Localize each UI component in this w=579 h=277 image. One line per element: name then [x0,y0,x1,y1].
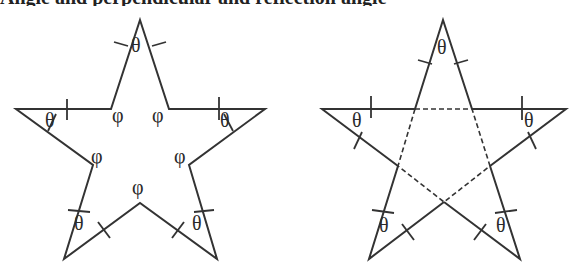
theta-label: θ [496,214,506,236]
star-outline [472,109,566,166]
diagram-canvas: θ θ θ θ θ φ φ φ φ φ θ [0,0,579,277]
phi-label: φ [132,176,144,199]
star-outline [369,166,444,259]
theta-label: θ [220,109,230,131]
right-star-labels: θ θ θ θ θ [352,36,534,236]
phi-label: φ [112,104,124,127]
star-outline [444,166,520,259]
phi-label: φ [152,104,164,127]
theta-label: θ [45,109,55,131]
tick-marks [354,60,536,240]
tick-marks [48,42,233,238]
theta-label: θ [437,36,447,58]
star-outline [415,20,472,109]
phi-label: φ [91,145,103,168]
theta-label: θ [74,212,84,234]
theta-label: θ [352,109,362,131]
theta-label: θ [379,214,389,236]
theta-label: θ [192,212,202,234]
theta-label: θ [131,34,141,56]
theta-label: θ [524,109,534,131]
phi-label: φ [174,145,186,168]
dashed-inner-pentagon [398,109,490,202]
